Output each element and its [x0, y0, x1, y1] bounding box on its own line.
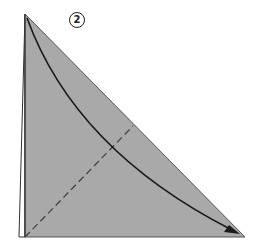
origami-diagram [0, 0, 257, 248]
step-number-badge: 2 [69, 12, 85, 28]
paper-edge-strip [19, 14, 25, 237]
